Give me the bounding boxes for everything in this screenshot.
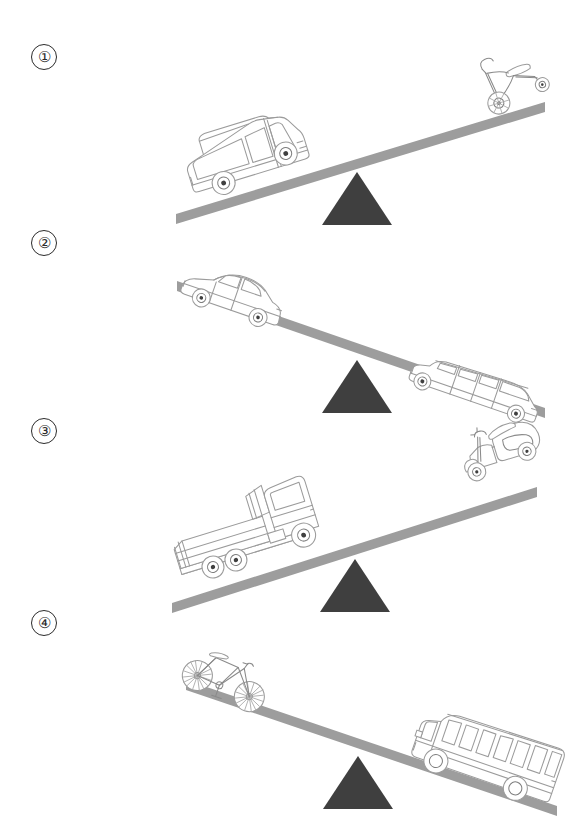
panel-3: ③ bbox=[0, 382, 582, 592]
panel-4: ④ bbox=[0, 570, 582, 830]
vehicle-school-bus bbox=[406, 703, 567, 812]
panel-2: ② bbox=[0, 195, 582, 395]
fulcrum-4 bbox=[323, 756, 393, 809]
tricycle-wheel-front bbox=[485, 89, 512, 116]
panel-1: ① bbox=[0, 0, 582, 200]
seesaw-scene-4 bbox=[0, 570, 582, 830]
vehicle-sedan-car bbox=[178, 259, 289, 333]
vehicle-motor-scooter bbox=[454, 411, 546, 483]
worksheet-page: ① bbox=[0, 0, 582, 831]
vehicle-bicycle bbox=[177, 643, 274, 715]
